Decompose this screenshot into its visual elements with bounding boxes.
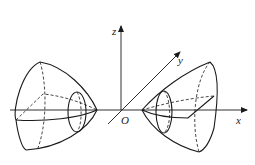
left-cross-section (68, 92, 86, 132)
left-outer-rim-back (38, 62, 45, 148)
left-sheet (15, 62, 97, 150)
x-axis-label: x (235, 114, 241, 126)
right-cross-section-back (164, 91, 170, 133)
right-upper-profile (142, 62, 210, 110)
hyperboloid-diagram: z y x O (0, 0, 255, 165)
z-axis-label: z (111, 25, 117, 37)
left-trace-back (16, 94, 97, 120)
origin-label: O (121, 114, 129, 126)
left-cross-section-back (77, 92, 81, 132)
axes (10, 26, 247, 124)
y-axis-label: y (177, 54, 183, 66)
right-sheet (142, 62, 217, 152)
right-trace-back (142, 96, 214, 110)
left-trace-front (16, 110, 97, 121)
right-outer-rim-back (195, 62, 210, 152)
left-outer-rim-front (15, 62, 40, 150)
